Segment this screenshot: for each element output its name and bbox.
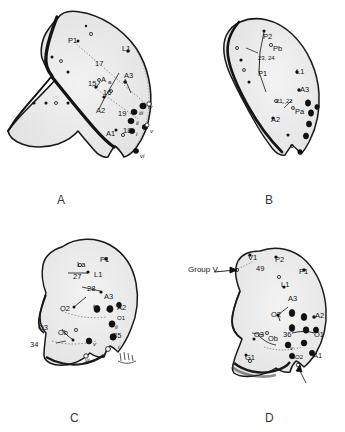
panel-c-label-34: 34: [30, 341, 38, 349]
panel-d-label-g1: G1: [245, 354, 255, 362]
panel-a-label-roman-iv: iv: [148, 104, 152, 110]
panel-c-label-roman-iv: iv: [93, 303, 97, 309]
figure-canvas: P1 L1 17 A3 15 A a 16 A2 19 A1 18 iv iii…: [0, 0, 345, 432]
panel-d-label-36: 36: [283, 331, 291, 339]
panel-d-label-group-v: Group V: [188, 266, 218, 274]
panel-letter-d: D: [265, 411, 274, 425]
panel-b-drawing: [180, 0, 345, 185]
panel-d-label-so2: SO2: [291, 354, 303, 360]
panel-c-drawing: [0, 225, 180, 405]
panel-letter-b: B: [265, 193, 274, 207]
panel-b-label-21-22: 21, 22: [276, 98, 293, 104]
panel-c-label-35: 35: [113, 332, 121, 340]
panel-letter-a: A: [57, 193, 66, 207]
panel-d-label-l1: L1: [281, 281, 289, 289]
panel-b-label-pa: Pa: [295, 108, 304, 116]
panel-d-label-ob: Ob: [268, 335, 278, 343]
panel-c-label-28: 28: [87, 285, 95, 293]
panel-c-label-a3: A3: [104, 293, 113, 301]
panel-b-label-a3: A3: [300, 86, 309, 94]
panel-a-label-roman-iii: iii: [139, 110, 143, 116]
panel-b-label-p1: P1: [258, 70, 267, 78]
panel-b-label-a2: A2: [271, 116, 280, 124]
panel-a-label-roman-i: i: [136, 131, 137, 137]
panel-a-label-a3: A3: [124, 72, 133, 80]
panel-c-label-roman-v: v: [93, 341, 96, 347]
panel-d-label-roman-v: v: [290, 345, 293, 351]
panel-a-label-a1: A1: [106, 130, 115, 138]
panel-d-label-v1: V1: [248, 254, 257, 262]
panel-c-label-roman-iii: iii: [106, 306, 110, 312]
panel-a-label-roman-vi: vi: [140, 153, 144, 159]
panel-a-label-16: 16: [103, 89, 111, 97]
panel-b: P2 Pb 23, 24 P1 L1 A3 21, 22 Pa A2: [180, 0, 345, 185]
panel-c-label-roman-i: i: [118, 344, 119, 350]
panel-d-label-o3: O3: [254, 331, 264, 339]
panel-a: P1 L1 17 A3 15 A a 16 A2 19 A1 18 iv iii…: [0, 0, 180, 185]
panel-letter-c: C: [70, 411, 79, 425]
panel-c-label-p1: P1: [100, 256, 109, 264]
panel-c-label-o1: O1: [117, 315, 125, 321]
panel-a-label-roman-v: v: [150, 128, 153, 134]
panel-b-label-23-24: 23, 24: [258, 55, 275, 61]
panel-d-label-a2: A2: [315, 312, 324, 320]
panel-d-label-p1: P1: [299, 268, 308, 276]
panel-a-drawing: [0, 0, 180, 185]
panel-a-label-l1: L1: [122, 45, 130, 53]
panel-c-label-27: 27: [73, 273, 81, 281]
panel-c-label-o3: O3: [38, 324, 48, 332]
panel-c-label-l1: L1: [94, 271, 102, 279]
panel-a-label-15: 15: [88, 80, 96, 88]
panel-a-label-18: 18: [123, 127, 131, 135]
panel-d-label-o2: O2: [271, 311, 281, 319]
panel-a-label-a-subscript: a: [108, 79, 111, 85]
panel-d-label-a1: A1: [313, 352, 322, 360]
panel-c-label-roman-ii: ii: [115, 324, 118, 330]
panel-b-label-pb: Pb: [273, 45, 282, 53]
panel-a-label-a2: A2: [96, 107, 105, 115]
panel-a-label-17: 17: [95, 60, 103, 68]
panel-a-label-p1: P1: [68, 37, 77, 45]
panel-b-label-p2: P2: [263, 33, 272, 41]
panel-b-label-l1: L1: [296, 68, 304, 76]
panel-d-label-o1: O1: [314, 331, 324, 339]
panel-c: La P1 27 L1 28 A3 O2 iv iii A2 O1 O3 Ob …: [0, 225, 180, 405]
panel-c-label-roman-vi: vi: [85, 357, 89, 363]
panel-d-label-a3: A3: [288, 295, 297, 303]
panel-d: V1 P2 49 Group V P1 L1 A3 O2 A2 O3 Ob 36…: [180, 225, 345, 405]
panel-c-label-a2: A2: [117, 304, 126, 312]
panel-c-label-o2: O2: [60, 305, 70, 313]
panel-a-label-a: A: [101, 76, 106, 84]
panel-c-label-ob: Ob: [58, 329, 68, 337]
panel-c-label-la: La: [77, 261, 85, 269]
panel-d-label-p2: P2: [275, 256, 284, 264]
panel-a-label-roman-ii: ii: [136, 120, 139, 126]
panel-a-label-19: 19: [118, 110, 126, 118]
panel-d-label-49: 49: [256, 265, 264, 273]
